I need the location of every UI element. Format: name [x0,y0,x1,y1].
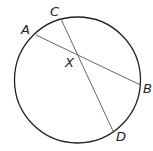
label-d: D [116,129,126,144]
chord-cd [61,19,113,131]
label-b: B [143,81,152,96]
label-x: X [64,55,75,70]
label-c: C [50,4,60,19]
label-a: A [20,22,30,37]
circle [15,17,141,143]
circle-diagram: A C X B D [0,0,153,151]
